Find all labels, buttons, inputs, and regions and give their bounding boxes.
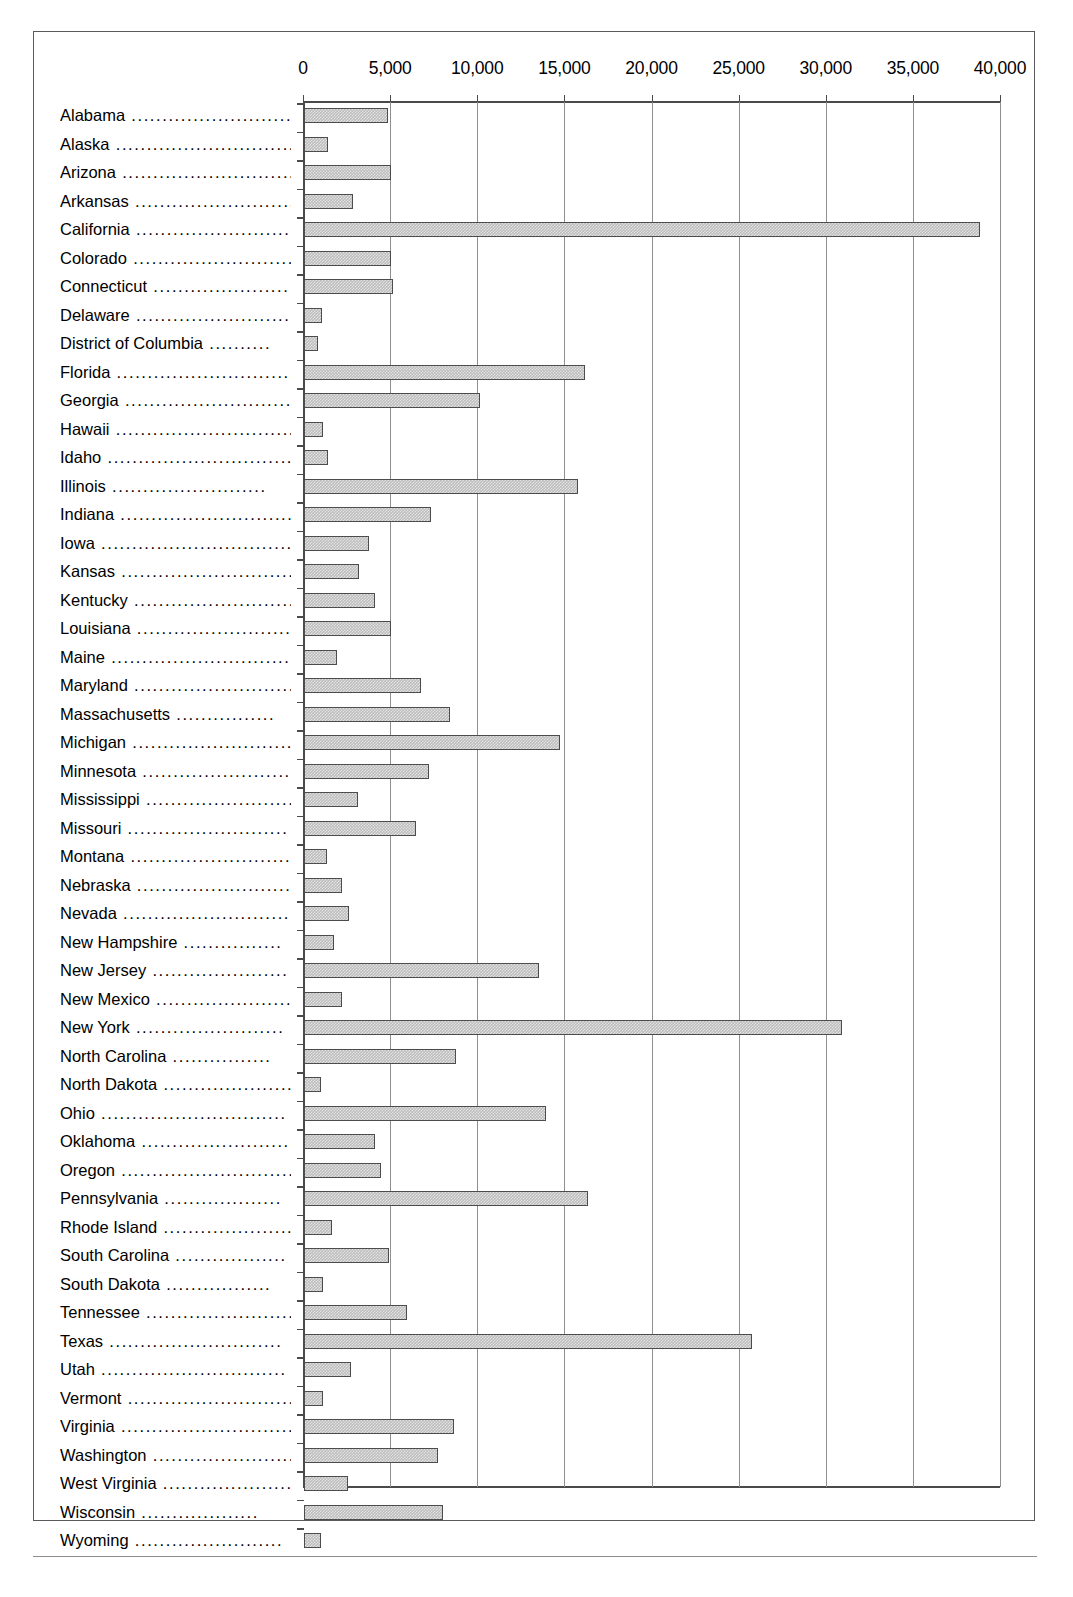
category-tickmark bbox=[297, 873, 304, 875]
dot-leader: .............................. bbox=[95, 1360, 287, 1378]
x-tick-label-5000: 5,000 bbox=[369, 58, 412, 78]
dot-leader: ......................... bbox=[130, 220, 291, 238]
category-tickmark bbox=[297, 901, 304, 903]
category-label: Oklahoma ......................... bbox=[60, 1131, 291, 1153]
dot-leader: ................ bbox=[177, 933, 282, 951]
category-name: New Jersey bbox=[60, 961, 146, 979]
category-tickmark bbox=[297, 132, 304, 134]
bar-row: Wyoming ........................ bbox=[0, 1526, 1073, 1555]
category-label: California ......................... bbox=[60, 219, 291, 241]
category-label: Wyoming ........................ bbox=[60, 1530, 291, 1552]
category-name: California bbox=[60, 220, 130, 238]
category-tickmark bbox=[297, 1243, 304, 1245]
category-tickmark bbox=[297, 1272, 304, 1274]
bar-row: Nevada .............................. bbox=[0, 899, 1073, 928]
bar-row: Indiana ............................ bbox=[0, 500, 1073, 529]
bar bbox=[304, 1334, 752, 1349]
category-label: Indiana ............................ bbox=[60, 504, 291, 526]
bar bbox=[304, 507, 431, 522]
bar-row: Maryland .......................... bbox=[0, 671, 1073, 700]
category-tickmark bbox=[297, 189, 304, 191]
bar bbox=[304, 1476, 348, 1491]
category-name: Iowa bbox=[60, 534, 95, 552]
category-tickmark bbox=[297, 360, 304, 362]
bar-row: Washington ............................ bbox=[0, 1441, 1073, 1470]
x-tick-label-20000: 20,000 bbox=[625, 58, 677, 78]
bar bbox=[304, 821, 416, 836]
category-tickmark bbox=[297, 673, 304, 675]
category-name: Rhode Island bbox=[60, 1218, 157, 1236]
bar-row: District of Columbia .......... bbox=[0, 329, 1073, 358]
dot-leader: .............................. bbox=[117, 904, 291, 922]
category-name: Georgia bbox=[60, 391, 119, 409]
category-tickmark bbox=[297, 759, 304, 761]
bar-row: Kansas .............................. bbox=[0, 557, 1073, 586]
dot-leader: ............................... bbox=[116, 163, 291, 181]
category-tickmark bbox=[297, 1357, 304, 1359]
dot-leader: ......................... bbox=[131, 876, 291, 894]
bar-row: Ohio .............................. bbox=[0, 1099, 1073, 1128]
dot-leader: ........................... bbox=[124, 847, 291, 865]
category-label: North Carolina ................ bbox=[60, 1046, 291, 1068]
bar-row: Mississippi ........................ bbox=[0, 785, 1073, 814]
dot-leader: .............................. bbox=[110, 420, 291, 438]
bar-row: West Virginia ...................... bbox=[0, 1469, 1073, 1498]
dot-leader: ............................ bbox=[129, 192, 291, 210]
dot-leader: ............................ bbox=[130, 306, 291, 324]
bar-row: Florida .............................. bbox=[0, 358, 1073, 387]
bar bbox=[304, 108, 388, 123]
bar bbox=[304, 1533, 321, 1548]
x-tick-label-15000: 15,000 bbox=[538, 58, 590, 78]
dot-leader: ...................... bbox=[150, 990, 291, 1008]
category-tickmark bbox=[297, 474, 304, 476]
x-tick-label-40000: 40,000 bbox=[974, 58, 1026, 78]
dot-leader: ........................ bbox=[140, 1303, 291, 1321]
dot-leader: .............................. bbox=[105, 648, 291, 666]
category-tickmark bbox=[297, 1443, 304, 1445]
dot-leader: ...................... bbox=[157, 1218, 291, 1236]
category-name: West Virginia bbox=[60, 1474, 157, 1492]
bar bbox=[304, 1134, 375, 1149]
category-tickmark bbox=[297, 844, 304, 846]
category-name: New York bbox=[60, 1018, 130, 1036]
x-tick-label-35000: 35,000 bbox=[887, 58, 939, 78]
category-label: Alabama .......................... bbox=[60, 105, 291, 127]
bar bbox=[304, 336, 318, 351]
bar-row: Massachusetts ................ bbox=[0, 700, 1073, 729]
bar bbox=[304, 1163, 381, 1178]
category-name: Oregon bbox=[60, 1161, 115, 1179]
category-label: Montana ........................... bbox=[60, 846, 291, 868]
category-name: Arkansas bbox=[60, 192, 129, 210]
bar-row: Hawaii .............................. bbox=[0, 415, 1073, 444]
dot-leader: ........................ bbox=[140, 790, 291, 808]
bar-row: Rhode Island ...................... bbox=[0, 1213, 1073, 1242]
bar bbox=[304, 735, 560, 750]
category-tickmark bbox=[297, 246, 304, 248]
category-label: Ohio .............................. bbox=[60, 1103, 291, 1125]
category-label: Iowa ................................. bbox=[60, 533, 291, 555]
category-label: Maryland .......................... bbox=[60, 675, 291, 697]
bar-row: Pennsylvania ................... bbox=[0, 1184, 1073, 1213]
bar-row: Louisiana ......................... bbox=[0, 614, 1073, 643]
category-label: Missouri .......................... bbox=[60, 818, 291, 840]
bar-row: Tennessee ........................ bbox=[0, 1298, 1073, 1327]
category-label: Minnesota ........................ bbox=[60, 761, 291, 783]
bar bbox=[304, 308, 322, 323]
bar bbox=[304, 992, 342, 1007]
category-name: Texas bbox=[60, 1332, 103, 1350]
category-name: Nevada bbox=[60, 904, 117, 922]
category-name: Hawaii bbox=[60, 420, 110, 438]
category-label: West Virginia ...................... bbox=[60, 1473, 291, 1495]
bar-row: Nebraska ......................... bbox=[0, 871, 1073, 900]
category-name: Connecticut bbox=[60, 277, 147, 295]
bar-row: Colorado ........................... bbox=[0, 244, 1073, 273]
dot-leader: ............................ bbox=[115, 1161, 291, 1179]
dot-leader: ................................. bbox=[95, 534, 291, 552]
category-name: Kentucky bbox=[60, 591, 128, 609]
bar bbox=[304, 251, 391, 266]
category-label: Vermont .............................. bbox=[60, 1388, 291, 1410]
category-name: South Carolina bbox=[60, 1246, 169, 1264]
category-label: Maine .............................. bbox=[60, 647, 291, 669]
bar bbox=[304, 593, 375, 608]
category-tickmark bbox=[297, 1101, 304, 1103]
